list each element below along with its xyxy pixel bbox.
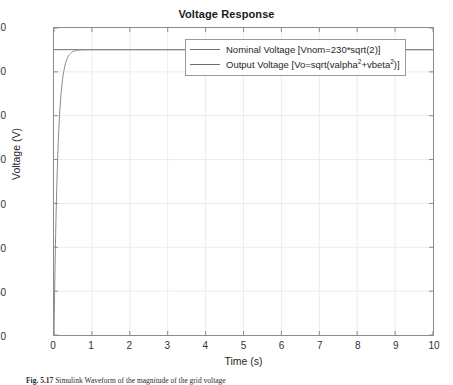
y-tick-label: 150 [0, 198, 6, 209]
figure-caption: Fig. 5.17 Simulink Waveform of the magni… [26, 376, 446, 385]
figure-container: Voltage Response 050100150200250300350 0… [0, 0, 453, 385]
chart-legend: Nominal Voltage [Vnom=230*sqrt(2)] Outpu… [185, 39, 406, 76]
x-tick-label: 4 [190, 340, 220, 351]
x-tick-label: 2 [114, 340, 144, 351]
y-tick-label: 100 [0, 242, 6, 253]
y-tick-label: 250 [0, 110, 6, 121]
caption-text: Simulink Waveform of the magnitude of th… [55, 376, 225, 385]
x-tick-label: 1 [76, 340, 106, 351]
x-tick-label: 0 [38, 340, 68, 351]
y-tick-label: 50 [0, 286, 6, 297]
y-tick-label: 0 [0, 331, 6, 342]
legend-item-nominal-voltage: Nominal Voltage [Vnom=230*sqrt(2)] [190, 42, 400, 57]
x-tick-label: 5 [229, 340, 259, 351]
legend-swatch-nominal-voltage [190, 49, 220, 50]
x-tick-label: 9 [381, 340, 411, 351]
x-tick-label: 3 [152, 340, 182, 351]
y-axis-title: Voltage (V) [10, 94, 22, 214]
legend-item-output-voltage: Output Voltage [Vo=sqrt(valpha2+vbeta2)] [190, 57, 400, 72]
chart-title: Voltage Response [0, 8, 453, 20]
legend-swatch-output-voltage [190, 64, 220, 65]
x-tick-label: 7 [305, 340, 335, 351]
caption-label: Fig. 5.17 [26, 376, 53, 385]
y-tick-label: 300 [0, 66, 6, 77]
x-tick-label: 8 [343, 340, 373, 351]
x-axis-title: Time (s) [53, 355, 434, 367]
legend-label-nominal-voltage: Nominal Voltage [Vnom=230*sqrt(2)] [226, 45, 380, 55]
y-tick-label: 200 [0, 154, 6, 165]
x-tick-label: 10 [419, 340, 449, 351]
y-tick-label: 350 [0, 22, 6, 33]
legend-label-output-voltage: Output Voltage [Vo=sqrt(valpha2+vbeta2)] [226, 60, 400, 70]
x-tick-label: 6 [267, 340, 297, 351]
